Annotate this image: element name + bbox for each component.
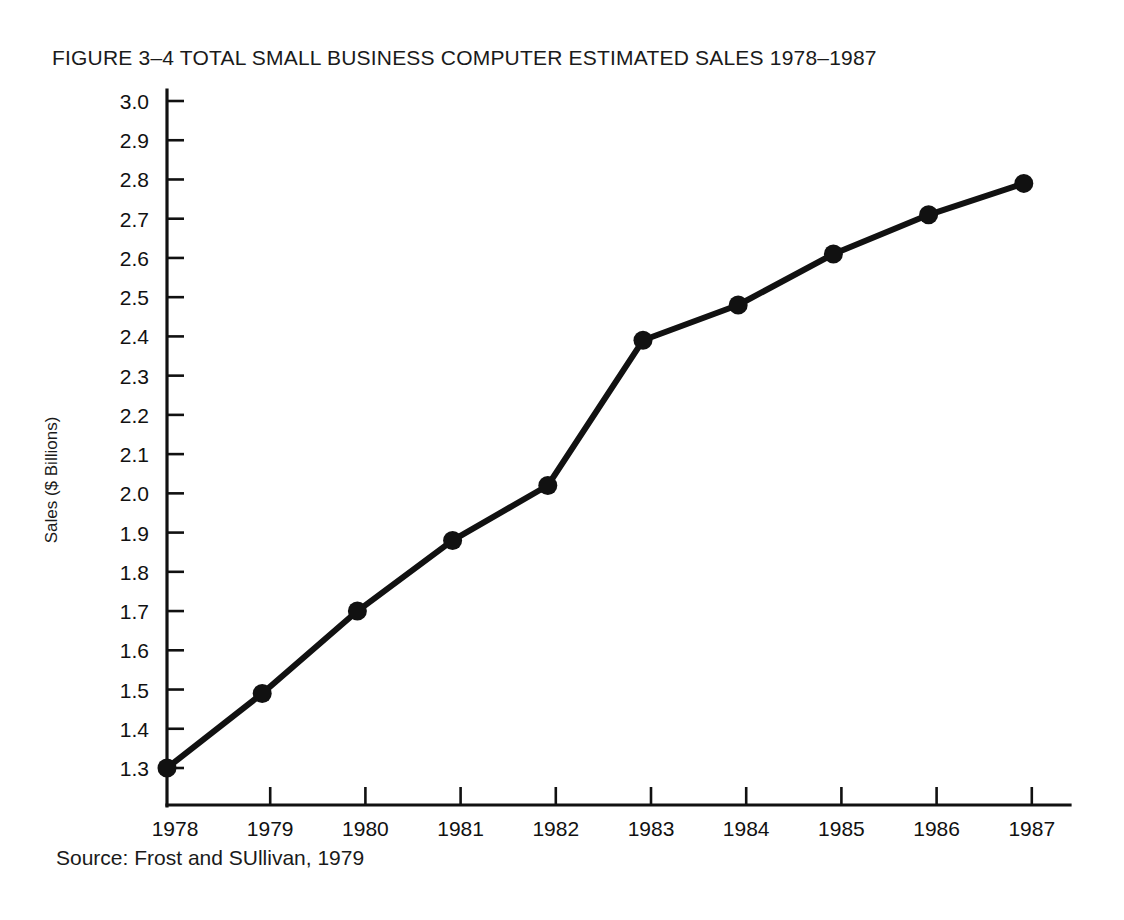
y-axis-tick-label: 3.0 xyxy=(120,90,149,113)
x-axis-tick-label: 1983 xyxy=(628,817,675,840)
data-point-marker xyxy=(824,245,843,264)
y-axis-tick-label: 2.9 xyxy=(120,129,149,152)
data-point-group xyxy=(158,174,1034,778)
y-axis-tick-label: 1.3 xyxy=(120,757,149,780)
x-axis-tick-label: 1980 xyxy=(342,817,389,840)
x-axis-tick-label: 1982 xyxy=(532,817,579,840)
x-axis-tick-label: 1986 xyxy=(913,817,960,840)
line-chart-plot: 3.02.92.82.72.62.52.42.32.22.12.01.91.81… xyxy=(0,0,1124,920)
y-axis-tick-label: 1.9 xyxy=(120,522,149,545)
y-axis-tick-label: 2.4 xyxy=(120,325,150,348)
x-axis-tick-label: 1984 xyxy=(723,817,770,840)
y-axis-tick-label: 2.1 xyxy=(120,443,149,466)
data-point-marker xyxy=(158,759,177,778)
y-axis-tick-label: 1.8 xyxy=(120,561,149,584)
data-point-marker xyxy=(538,476,557,495)
y-axis-tick-group: 3.02.92.82.72.62.52.42.32.22.12.01.91.81… xyxy=(120,90,184,780)
y-axis-tick-label: 1.7 xyxy=(120,600,149,623)
data-point-marker xyxy=(1014,174,1033,193)
x-axis-tick-label: 1987 xyxy=(1008,817,1055,840)
y-axis-tick-label: 2.6 xyxy=(120,247,149,270)
x-axis-tick-label: 1985 xyxy=(818,817,865,840)
x-axis-tick-label: 1979 xyxy=(247,817,294,840)
y-axis-tick-label: 1.6 xyxy=(120,639,149,662)
x-axis-tick-label: 1978 xyxy=(152,817,199,840)
data-point-marker xyxy=(348,602,367,621)
figure-container: FIGURE 3–4 TOTAL SMALL BUSINESS COMPUTER… xyxy=(0,0,1124,920)
y-axis-tick-label: 2.8 xyxy=(120,168,149,191)
x-axis-tick-group: 1978197919801981198219831984198519861987 xyxy=(152,787,1056,840)
data-point-marker xyxy=(729,296,748,315)
y-axis-tick-label: 2.3 xyxy=(120,365,149,388)
y-axis-tick-label: 2.7 xyxy=(120,208,149,231)
x-axis-tick-label: 1981 xyxy=(437,817,484,840)
y-axis-tick-label: 2.5 xyxy=(120,286,149,309)
data-point-marker xyxy=(443,531,462,550)
data-point-marker xyxy=(919,205,938,224)
y-axis-tick-label: 1.5 xyxy=(120,679,149,702)
data-series-line xyxy=(167,183,1024,768)
source-note: Source: Frost and SUllivan, 1979 xyxy=(56,846,364,870)
y-axis-tick-label: 1.4 xyxy=(120,718,150,741)
data-point-marker xyxy=(253,684,272,703)
data-point-marker xyxy=(634,331,653,350)
y-axis-tick-label: 2.2 xyxy=(120,404,149,427)
y-axis-tick-label: 2.0 xyxy=(120,482,149,505)
